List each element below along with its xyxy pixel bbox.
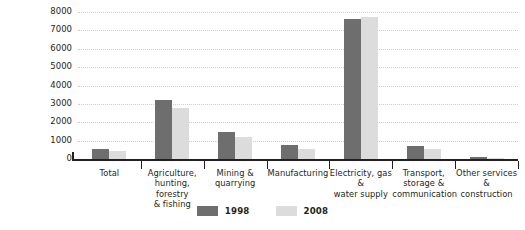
category-label-1: Agriculture,hunting, forestry& fishing — [141, 168, 204, 210]
category-label-line: quarrying — [204, 178, 267, 188]
category-label-6: Other services &construction — [455, 168, 518, 199]
category-label-line: storage & — [392, 178, 455, 188]
bar-2008-2 — [235, 137, 252, 159]
gridline-1000 — [78, 141, 518, 142]
y-axis-tick-label: 5000 — [26, 62, 72, 71]
gridline-4000 — [78, 86, 518, 87]
category-tick-end — [518, 161, 519, 169]
legend-label-1998: 1998 — [225, 207, 250, 216]
gridline-6000 — [78, 49, 518, 50]
y-axis-tick-label: 8000 — [26, 7, 72, 16]
chart-legend: 1998 2008 — [0, 206, 525, 216]
legend-swatch-2008-icon — [276, 206, 297, 216]
y-axis-tick-label: 0 — [26, 154, 72, 163]
bar-1998-4 — [344, 19, 361, 159]
category-label-5: Transport,storage &communication — [392, 168, 455, 199]
bar-2008-4 — [361, 17, 378, 159]
category-label-0: Total — [78, 168, 141, 178]
category-label-line: Manufacturing — [267, 168, 330, 178]
gridline-5000 — [78, 67, 518, 68]
bar-1998-0 — [92, 149, 109, 159]
gridline-8000 — [78, 12, 518, 13]
category-label-line: Agriculture, — [141, 168, 204, 178]
legend-label-2008: 2008 — [304, 207, 329, 216]
bar-2008-5 — [424, 149, 441, 159]
bar-2008-3 — [298, 149, 315, 159]
y-axis-tick-label: 7000 — [26, 25, 72, 34]
category-label-line: Electricity, gas & — [329, 168, 392, 189]
gridline-3000 — [78, 104, 518, 105]
category-label-line: construction — [455, 189, 518, 199]
gridline-7000 — [78, 30, 518, 31]
category-label-line: Transport, — [392, 168, 455, 178]
category-label-3: Manufacturing — [267, 168, 330, 178]
bar-1998-5 — [407, 146, 424, 159]
bar-2008-1 — [172, 108, 189, 159]
legend-swatch-1998-icon — [197, 206, 218, 216]
plot-area: 010002000300040005000600070008000 — [78, 12, 518, 159]
category-label-line: communication — [392, 189, 455, 199]
category-label-line: water supply — [329, 189, 392, 199]
bar-1998-1 — [155, 100, 172, 159]
category-label-line: hunting, forestry — [141, 178, 204, 199]
category-label-line: Mining & — [204, 168, 267, 178]
y-axis-tick-label: 2000 — [26, 117, 72, 126]
category-label-line: Other services & — [455, 168, 518, 189]
y-axis-tick-label: 4000 — [26, 81, 72, 90]
y-axis-tick-label: 3000 — [26, 99, 72, 108]
bar-chart: 010002000300040005000600070008000 TotalA… — [0, 0, 525, 230]
bar-1998-2 — [218, 132, 235, 159]
category-label-4: Electricity, gas &water supply — [329, 168, 392, 199]
gridline-2000 — [78, 122, 518, 123]
x-axis-line — [72, 159, 518, 161]
category-label-line: Total — [78, 168, 141, 178]
bar-1998-3 — [281, 145, 298, 159]
bar-2008-0 — [109, 151, 126, 159]
legend-item-1998[interactable]: 1998 — [197, 206, 250, 216]
legend-item-2008[interactable]: 2008 — [276, 206, 329, 216]
y-axis-tick-label: 1000 — [26, 136, 72, 145]
category-label-2: Mining &quarrying — [204, 168, 267, 189]
y-axis-tick-label: 6000 — [26, 44, 72, 53]
